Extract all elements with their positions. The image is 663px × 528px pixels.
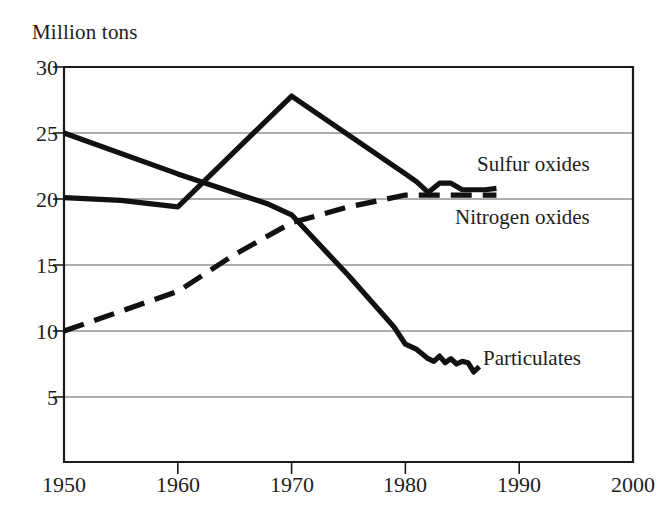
series-line-sulfur-oxides [64, 96, 496, 207]
chart-figure: Million tons 30 25 20 15 10 5 1950 1960 … [0, 0, 663, 528]
series-line-nitrogen-oxides [64, 195, 496, 331]
series-line-particulates [64, 133, 479, 372]
plot-canvas [0, 0, 663, 528]
